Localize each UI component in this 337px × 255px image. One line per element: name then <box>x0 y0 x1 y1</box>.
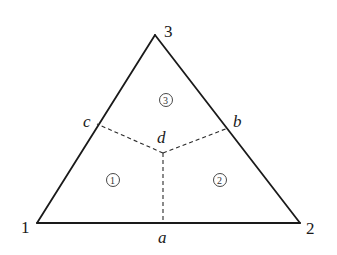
region-marker-2: 2 <box>214 174 227 187</box>
region-label-2: 2 <box>217 175 222 186</box>
region-marker-3: 3 <box>160 94 173 107</box>
vertex-label-2: 2 <box>306 219 315 238</box>
region-label-3: 3 <box>163 95 168 106</box>
region-label-1: 1 <box>110 175 115 186</box>
edge-3-1 <box>37 35 155 223</box>
vertex-label-1: 1 <box>21 218 30 237</box>
point-label-c: c <box>83 112 91 131</box>
dashed-line-d-c <box>97 124 163 153</box>
vertex-label-3: 3 <box>164 22 173 41</box>
region-marker-1: 1 <box>107 174 120 187</box>
triangle-diagram: 1 2 3 a b c d 3 1 2 <box>0 0 337 255</box>
dashed-line-d-b <box>163 128 228 153</box>
point-label-b: b <box>233 112 242 131</box>
point-label-a: a <box>158 228 167 247</box>
point-label-d: d <box>157 128 166 147</box>
edge-2-3 <box>155 35 300 223</box>
